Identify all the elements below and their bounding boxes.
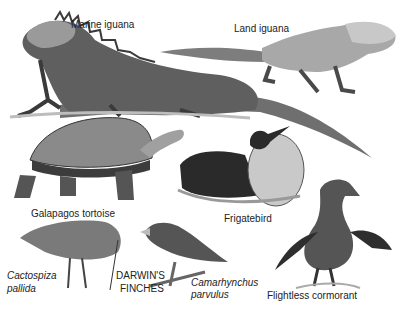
label-flightless-cormorant: Flightless cormorant bbox=[267, 290, 357, 301]
galapagos-tortoise-figure bbox=[14, 118, 184, 200]
label-marine-iguana: Marine iguana bbox=[71, 19, 134, 30]
label-darwins: DARWIN'S bbox=[116, 270, 165, 281]
frigatebird-figure bbox=[178, 126, 304, 206]
label-land-iguana: Land iguana bbox=[234, 23, 289, 34]
label-galapagos-tortoise: Galapagos tortoise bbox=[31, 208, 115, 219]
galapagos-animals-illustration: Marine iguana Land iguana Galapagos tort… bbox=[0, 0, 408, 309]
label-camarhynchus-species: parvulus bbox=[191, 289, 229, 300]
label-cactospiza-genus: Cactospiza bbox=[7, 270, 56, 281]
label-frigatebird: Frigatebird bbox=[224, 213, 272, 224]
label-camarhynchus-genus: Camarhynchus bbox=[191, 277, 258, 288]
illustration-drawing bbox=[0, 0, 408, 309]
label-finches: FINCHES bbox=[120, 283, 164, 294]
label-cactospiza-species: pallida bbox=[7, 283, 36, 294]
